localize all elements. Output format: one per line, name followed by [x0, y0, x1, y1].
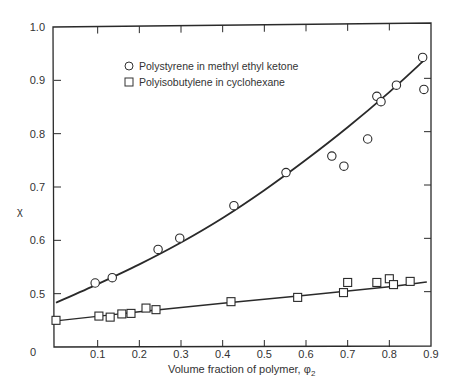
circle-marker-icon	[91, 279, 99, 287]
x-tick-labels: 0.10.20.30.40.50.60.70.80.9	[90, 348, 439, 360]
square-marker-icon	[95, 312, 103, 320]
legend-label-polystyrene: Polystyrene in methyl ethyl ketone	[139, 60, 298, 72]
circle-marker-icon	[282, 168, 290, 176]
origin-label: 0	[30, 346, 36, 358]
circle-marker-icon	[377, 97, 385, 105]
legend-square-icon	[125, 78, 133, 86]
y-tick-label: 0.7	[30, 181, 45, 193]
y-tick-label: 0.8	[30, 128, 45, 140]
circle-marker-icon	[328, 152, 336, 160]
x-axis-title: Volume fraction of polymer, φ2	[168, 363, 316, 378]
x-axis-title-symbol: φ	[304, 363, 311, 375]
square-marker-icon	[142, 304, 150, 312]
circle-marker-icon	[154, 245, 162, 253]
legend: Polystyrene in methyl ethyl ketone Polyi…	[125, 60, 298, 88]
circle-marker-icon	[340, 162, 348, 170]
square-marker-icon	[344, 278, 352, 286]
x-tick-label: 0.1	[90, 348, 105, 360]
square-marker-icon	[52, 316, 60, 324]
y-tick-label: 1.0	[30, 21, 45, 33]
y-tick-label: 0.5	[30, 288, 45, 300]
square-marker-icon	[390, 281, 398, 289]
fit-curve-polystyrene	[56, 62, 423, 303]
circle-marker-icon	[363, 135, 371, 143]
y-axis-title: χ	[17, 205, 23, 217]
square-marker-icon	[406, 277, 414, 285]
x-tick-label: 0.9	[423, 348, 438, 360]
chart: 0.10.20.30.40.50.60.70.80.9 0.50.60.70.8…	[0, 0, 457, 392]
circle-marker-icon	[418, 53, 426, 61]
x-axis-title-main: Volume fraction of polymer,	[168, 363, 304, 375]
y-tick-label: 0.9	[30, 74, 45, 86]
square-marker-icon	[294, 293, 302, 301]
circle-marker-icon	[230, 201, 238, 209]
legend-circle-icon	[125, 62, 133, 70]
y-tick-labels: 0.50.60.70.80.91.0	[30, 21, 45, 300]
x-tick-label: 0.7	[340, 348, 355, 360]
x-tick-label: 0.2	[132, 348, 147, 360]
x-axis-title-sub: 2	[311, 369, 316, 378]
circle-marker-icon	[392, 81, 400, 89]
data-markers	[52, 53, 428, 324]
x-tick-label: 0.6	[298, 348, 313, 360]
x-tick-label: 0.8	[382, 348, 397, 360]
circle-marker-icon	[108, 273, 116, 281]
circle-marker-icon	[176, 234, 184, 242]
square-marker-icon	[106, 313, 114, 321]
square-marker-icon	[340, 289, 348, 297]
legend-label-polyisobutylene: Polyisobutylene in cyclohexane	[139, 76, 285, 88]
x-tick-label: 0.4	[215, 348, 230, 360]
y-tick-label: 0.6	[30, 234, 45, 246]
square-marker-icon	[118, 310, 126, 318]
square-marker-icon	[373, 278, 381, 286]
x-tick-label: 0.3	[173, 348, 188, 360]
square-marker-icon	[152, 306, 160, 314]
square-marker-icon	[227, 298, 235, 306]
circle-marker-icon	[420, 85, 428, 93]
x-tick-label: 0.5	[257, 348, 272, 360]
square-marker-icon	[127, 309, 135, 317]
